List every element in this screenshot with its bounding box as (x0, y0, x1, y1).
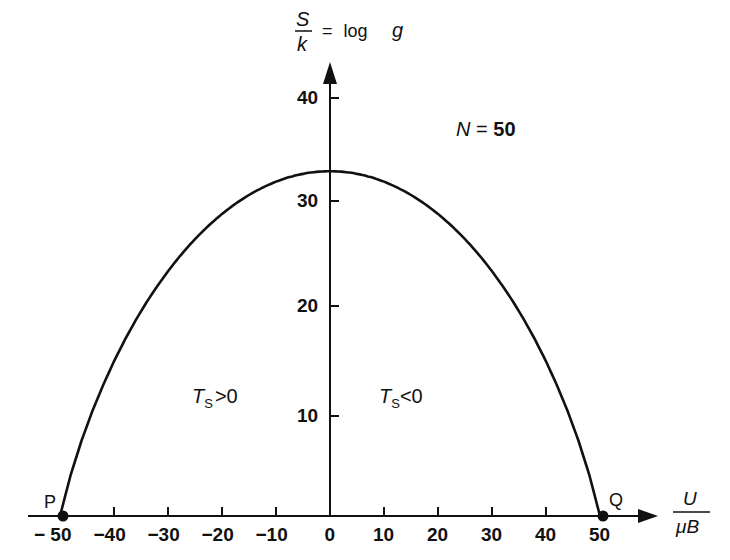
point-p-marker (58, 511, 69, 522)
x-tick-label: 10 (373, 524, 394, 546)
y-tick-label: 10 (297, 405, 318, 427)
ts-right-rel: <0 (400, 385, 423, 407)
region-label-negative-temp: TS<0 (379, 385, 423, 411)
x-tick-label: 0 (325, 524, 336, 546)
x-tick-label: −40 (94, 524, 126, 546)
point-q-label: Q (609, 490, 623, 511)
y-axis-label-numerator: S (296, 8, 309, 31)
x-tick-label: −30 (148, 524, 180, 546)
ts-left-rel: >0 (215, 385, 238, 407)
n-annotation: N = 50 (456, 118, 516, 141)
x-tick-label: 50 (589, 524, 610, 546)
n-value: 50 (493, 118, 515, 140)
ts-right-sub: S (391, 396, 400, 411)
ts-right-t: T (379, 385, 391, 407)
x-axis-label-denominator: μB (676, 516, 699, 538)
y-axis-label-denominator: k (297, 33, 307, 56)
y-tick-label: 20 (297, 295, 318, 317)
n-equals: = (476, 118, 488, 140)
ts-left-sub: S (204, 396, 213, 411)
x-tick-label: 30 (481, 524, 502, 546)
x-tick-label: −20 (202, 524, 234, 546)
y-axis-arrow-icon (323, 62, 337, 84)
y-tick-label: 40 (297, 87, 318, 109)
x-tick-label: 20 (427, 524, 448, 546)
y-ticks (330, 98, 339, 416)
x-tick-label: 40 (535, 524, 556, 546)
x-axis-label-numerator: U (683, 488, 697, 510)
ts-left-t: T (192, 385, 204, 407)
point-q-marker (598, 511, 609, 522)
entropy-curve-chart (0, 0, 730, 560)
n-symbol: N (456, 118, 470, 140)
x-tick-label: − 50 (34, 524, 72, 546)
point-p-label: P (44, 492, 56, 513)
y-tick-label: 30 (297, 190, 318, 212)
x-tick-label: −10 (256, 524, 288, 546)
x-axis-arrow-icon (638, 509, 658, 523)
region-label-positive-temp: TS>0 (192, 385, 238, 411)
y-axis-label-equals-log: = log (322, 21, 368, 42)
y-axis-label-g: g (392, 19, 403, 42)
